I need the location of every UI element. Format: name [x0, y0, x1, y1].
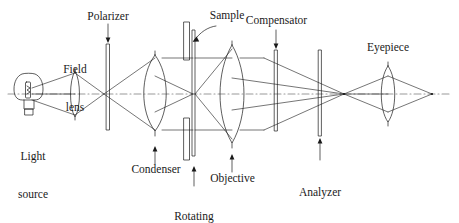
polarizer-plate	[107, 44, 110, 130]
condenser-leader	[153, 146, 158, 164]
optical-diagram-figure: Field lens Polarizer Light source Conden…	[0, 0, 459, 223]
label-compensator: Compensator	[238, 14, 315, 27]
analyzer-leader	[318, 138, 323, 160]
compensator-leader	[274, 30, 279, 49]
sample-leader	[193, 26, 216, 42]
label-condenser: Condenser	[122, 163, 190, 176]
rotating-stage	[192, 30, 195, 156]
objective-leader	[230, 154, 235, 172]
polarizer-leader	[106, 24, 111, 43]
label-objective: Objective	[204, 172, 261, 185]
rotating-stage-leader	[192, 166, 197, 186]
analyzer-plate	[319, 50, 322, 136]
label-field-lens: Field lens	[52, 38, 98, 138]
label-polarizer: Polarizer	[75, 10, 141, 23]
label-light-source: Light source	[5, 125, 61, 223]
compensator-plate	[275, 50, 278, 131]
label-rotating-stage: Rotating stage	[165, 185, 223, 223]
label-eyepiece: Eyepiece	[359, 41, 417, 54]
label-analyzer: Analyzer (rotating)	[291, 161, 349, 223]
